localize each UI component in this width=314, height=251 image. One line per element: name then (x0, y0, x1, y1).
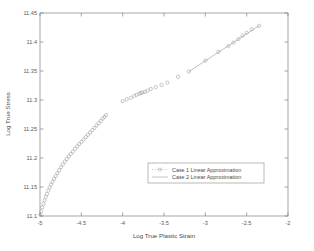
chart-figure: -5-4.5-4-3.5-3-2.5-2 11.111.1511.211.251… (0, 0, 314, 251)
legend-entry-label: Case 1 Linear Approximation (172, 167, 241, 173)
y-axis-ticks: 11.111.1511.211.2511.311.3511.411.45 (23, 10, 288, 219)
y-tick-label: 11.35 (23, 68, 37, 74)
plot-frame (40, 13, 288, 216)
data-point-marker (71, 150, 74, 153)
x-tick-label: -4.5 (77, 220, 87, 226)
y-axis-label: Log True Stress (4, 92, 11, 136)
x-axis-label: Log True Plastic Strain (133, 232, 196, 239)
chart-plot-svg: -5-4.5-4-3.5-3-2.5-2 11.111.1511.211.251… (0, 0, 314, 251)
data-point-marker (149, 87, 152, 90)
x-tick-label: -3.5 (159, 220, 169, 226)
x-tick-label: -4 (120, 220, 125, 226)
y-tick-label: 11.1 (27, 213, 37, 219)
data-point-marker (42, 202, 45, 205)
chart-legend: Case 1 Linear ApproximationCase 2 Linear… (148, 163, 264, 183)
data-point-marker (61, 163, 64, 166)
x-tick-label: -5 (38, 220, 43, 226)
data-point-marker (43, 199, 46, 202)
data-series (39, 24, 261, 216)
y-tick-label: 11.2 (27, 155, 37, 161)
x-tick-label: -2.5 (242, 220, 252, 226)
data-point-marker (154, 86, 157, 89)
data-point-marker (160, 83, 163, 86)
legend-entry-label: Case 2 Linear Approximation (172, 174, 241, 180)
x-tick-label: -2 (286, 220, 291, 226)
y-tick-label: 11.45 (23, 10, 37, 16)
data-point-marker (65, 158, 68, 161)
y-tick-label: 11.25 (23, 126, 37, 132)
y-tick-label: 11.4 (27, 39, 37, 45)
x-tick-label: -3 (203, 220, 208, 226)
data-series (189, 26, 259, 72)
y-tick-label: 11.15 (23, 184, 37, 190)
x-axis-ticks: -5-4.5-4-3.5-3-2.5-2 (38, 13, 291, 226)
y-tick-label: 11.3 (27, 97, 37, 103)
data-point-marker (176, 75, 179, 78)
data-point-marker (129, 96, 132, 99)
data-point-marker (41, 206, 44, 209)
data-point-marker (121, 100, 124, 103)
data-series-layer (39, 24, 261, 216)
data-point-marker (125, 98, 128, 101)
series-line (189, 26, 259, 72)
data-point-marker (45, 192, 48, 195)
data-point-marker (166, 81, 169, 84)
